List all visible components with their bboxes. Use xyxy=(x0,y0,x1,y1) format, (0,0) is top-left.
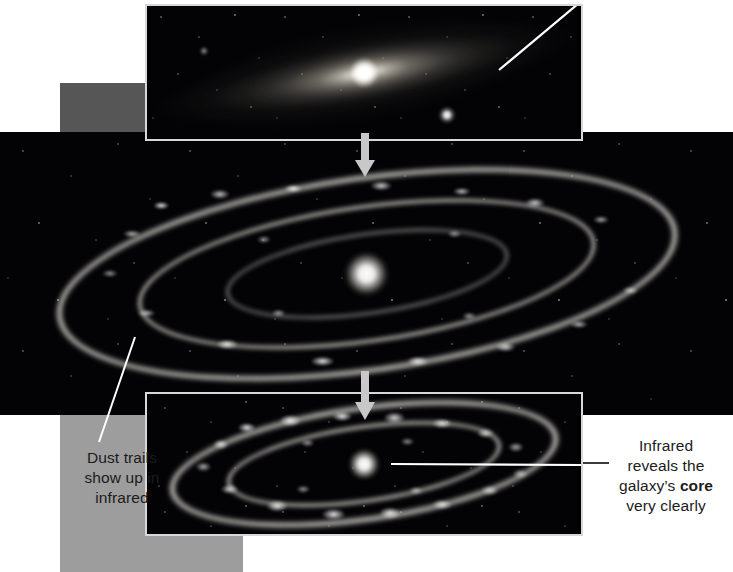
arrow-infrared-to-detail xyxy=(352,371,378,421)
dust-trails-caption-line-3: infrared xyxy=(56,488,188,508)
infrared-core-caption-line-1: Infrared xyxy=(604,436,728,456)
leader-line-to-visible-disk-extension xyxy=(570,0,733,14)
footer-cut-off-text xyxy=(404,563,733,572)
infrared-core-caption-core-word: core xyxy=(680,477,713,494)
infrared-core-caption: Infrared reveals the galaxy’s core very … xyxy=(604,436,728,516)
infrared-core-caption-line-3-prefix: galaxy’s xyxy=(619,477,680,494)
infrared-core-caption-line-2: reveals the xyxy=(604,456,728,476)
dust-trails-caption: Dust trails show up in infrared xyxy=(56,448,188,508)
infrared-core-caption-line-3: galaxy’s core xyxy=(604,476,728,496)
arrow-visible-to-infrared xyxy=(352,133,378,178)
infrared-core-caption-line-4: very clearly xyxy=(604,496,728,516)
visible-light-panel xyxy=(145,4,583,141)
figure-root: Dust trails show up in infrared Infrared… xyxy=(0,0,733,572)
leader-line-to-visible-disk xyxy=(147,6,583,141)
leader-line-to-dust-lane xyxy=(90,332,145,450)
galaxy-core xyxy=(334,249,400,297)
dust-trails-caption-line-2: show up in xyxy=(56,468,188,488)
dust-trails-caption-line-1: Dust trails xyxy=(56,448,188,468)
